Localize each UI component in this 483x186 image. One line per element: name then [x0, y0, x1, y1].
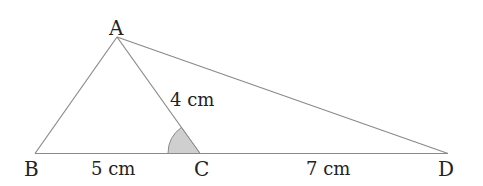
point-label-c: C [194, 157, 209, 181]
point-label-b: B [24, 157, 39, 181]
point-label-d: D [438, 157, 454, 181]
length-label-cd: 7 cm [306, 158, 350, 179]
length-label-bc: 5 cm [91, 158, 135, 179]
segment-ad [117, 37, 448, 154]
length-label-ac: 4 cm [170, 89, 214, 110]
segment-ab [35, 37, 117, 154]
triangle-diagram: A B C D 4 cm 5 cm 7 cm [0, 0, 483, 186]
point-label-a: A [108, 16, 124, 40]
angle-marker-acb [168, 127, 200, 153]
